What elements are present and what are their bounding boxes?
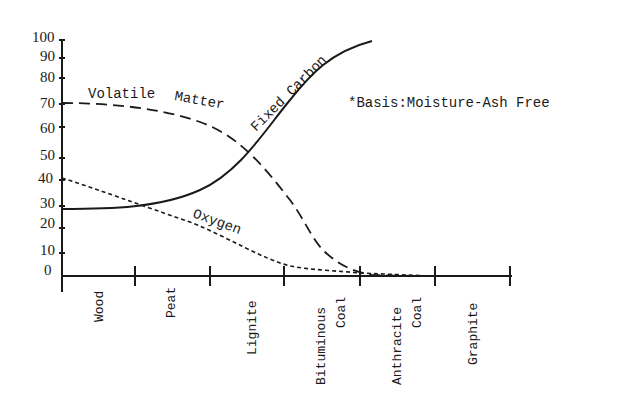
category-lignite: Lignite — [245, 300, 260, 355]
y-tick-30: 30 — [40, 195, 55, 211]
category-anthracite-line1: Anthracite — [390, 307, 405, 385]
category-peat: Peat — [164, 287, 179, 318]
y-tick-80: 80 — [40, 69, 55, 85]
fixed-carbon-label: Fixed Carbon — [248, 52, 331, 135]
volatile-matter-label-part2: Matter — [173, 88, 225, 113]
y-tick-70: 70 — [40, 95, 55, 111]
y-tick-100: 100 — [32, 29, 55, 45]
category-graphite: Graphite — [466, 303, 481, 365]
y-tick-60: 60 — [40, 120, 55, 136]
category-labels: Wood Peat Lignite Bituminous Coal Anthra… — [92, 287, 481, 385]
x-axis — [62, 266, 512, 292]
oxygen-curve — [62, 178, 430, 276]
y-axis: 100 90 80 70 60 50 40 30 20 10 0 — [32, 29, 65, 290]
volatile-matter-curve — [62, 103, 420, 276]
category-anthracite-line2: Coal — [410, 297, 425, 328]
y-tick-0: 0 — [44, 262, 52, 278]
y-tick-40: 40 — [38, 170, 53, 186]
y-tick-10: 10 — [40, 242, 55, 258]
basis-note: *Basis:Moisture-Ash Free — [348, 95, 550, 111]
y-tick-50: 50 — [40, 147, 55, 163]
category-wood: Wood — [92, 291, 107, 322]
coalification-chart: 100 90 80 70 60 50 40 30 20 10 0 Wood Pe… — [0, 0, 619, 407]
volatile-matter-label-part1: Volatile — [88, 86, 155, 102]
y-tick-90: 90 — [40, 48, 55, 64]
category-bituminous-line1: Bituminous — [314, 307, 329, 385]
y-tick-20: 20 — [40, 215, 55, 231]
category-bituminous-line2: Coal — [334, 297, 349, 328]
